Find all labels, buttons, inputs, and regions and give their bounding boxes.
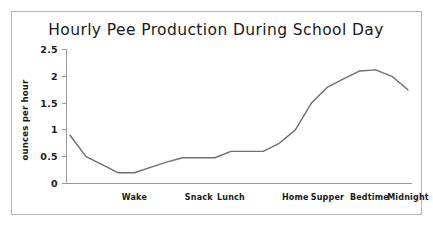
x-tick-label-midnight: Midnight (387, 193, 429, 202)
y-tick-label-1-5: 1.5 (40, 98, 58, 109)
y-tick-label-2-5: 2.5 (40, 44, 58, 55)
x-tick-label-bedtime: Bedtime (350, 193, 389, 202)
x-tick-label-wake: Wake (122, 193, 148, 202)
data-series-line-ounces-per-hour (70, 70, 408, 173)
x-axis: Wake Snack Lunch Home Supper Bedtime Mid… (67, 184, 429, 203)
line-chart: Hourly Pee Production During School Day … (0, 0, 433, 230)
y-tick-label-2: 2 (51, 71, 58, 82)
x-tick-label-snack: Snack (185, 193, 213, 202)
y-axis: 2.5 2 1.5 1 0.5 0 (40, 44, 66, 189)
y-tick-label-1: 1 (51, 124, 58, 135)
x-tick-label-lunch: Lunch (217, 193, 245, 202)
y-tick-marks (62, 50, 67, 184)
chart-figure: Hourly Pee Production During School Day … (0, 0, 433, 230)
x-tick-label-home: Home (282, 193, 309, 202)
y-tick-label-0: 0 (51, 178, 58, 189)
x-tick-labels: Wake Snack Lunch Home Supper Bedtime Mid… (122, 193, 429, 202)
x-tick-label-supper: Supper (311, 193, 344, 202)
y-axis-title: ounces per hour (20, 79, 30, 161)
y-tick-label-0-5: 0.5 (40, 151, 58, 162)
chart-title: Hourly Pee Production During School Day (48, 21, 384, 39)
